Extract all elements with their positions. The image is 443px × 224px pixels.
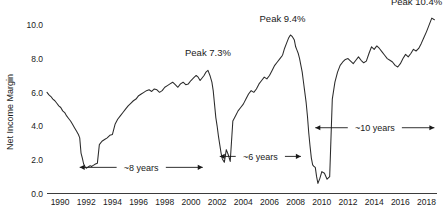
y-tick-label: 4.0	[31, 121, 43, 131]
peak-label-0: Peak 7.3%	[185, 47, 231, 58]
chart-background	[0, 0, 443, 224]
y-axis-title: Net Income Margin	[5, 74, 15, 150]
peak-label-1: Peak 9.4%	[260, 13, 306, 24]
x-tick-label: 2012	[339, 197, 358, 207]
x-tick-label: 2008	[286, 197, 305, 207]
y-tick-label: 8.0	[31, 54, 43, 64]
duration-label-2: ~10 years	[355, 123, 395, 133]
x-tick-label: 1994	[103, 197, 122, 207]
x-tick-label: 2002	[208, 197, 227, 207]
y-tick-label: 6.0	[31, 88, 43, 98]
x-tick-label: 2018	[417, 197, 436, 207]
x-tick-label: 2000	[181, 197, 200, 207]
chart-container: 0.02.04.06.08.010.0 Net Income Margin 19…	[0, 0, 443, 224]
y-tick-label: 10.0	[26, 20, 43, 30]
duration-label-1: ~6 years	[243, 152, 278, 162]
x-tick-label: 2010	[312, 197, 331, 207]
x-tick-label: 1996	[129, 197, 148, 207]
x-tick-label: 1998	[155, 197, 174, 207]
peak-label-2: Peak 10.4%	[391, 0, 443, 7]
x-tick-label: 2006	[260, 197, 279, 207]
x-tick-label: 2014	[365, 197, 384, 207]
x-tick-label: 2004	[234, 197, 253, 207]
x-tick-label: 1992	[77, 197, 96, 207]
x-tick-label: 2016	[391, 197, 410, 207]
duration-label-0: ~8 years	[124, 163, 159, 173]
x-axis-tick-labels: 1990199219941996199820002002200420062008…	[51, 197, 437, 207]
net-income-margin-line-chart: 0.02.04.06.08.010.0 Net Income Margin 19…	[0, 0, 443, 224]
y-tick-label: 2.0	[31, 155, 43, 165]
y-tick-label: 0.0	[31, 189, 43, 199]
x-tick-label: 1990	[51, 197, 70, 207]
